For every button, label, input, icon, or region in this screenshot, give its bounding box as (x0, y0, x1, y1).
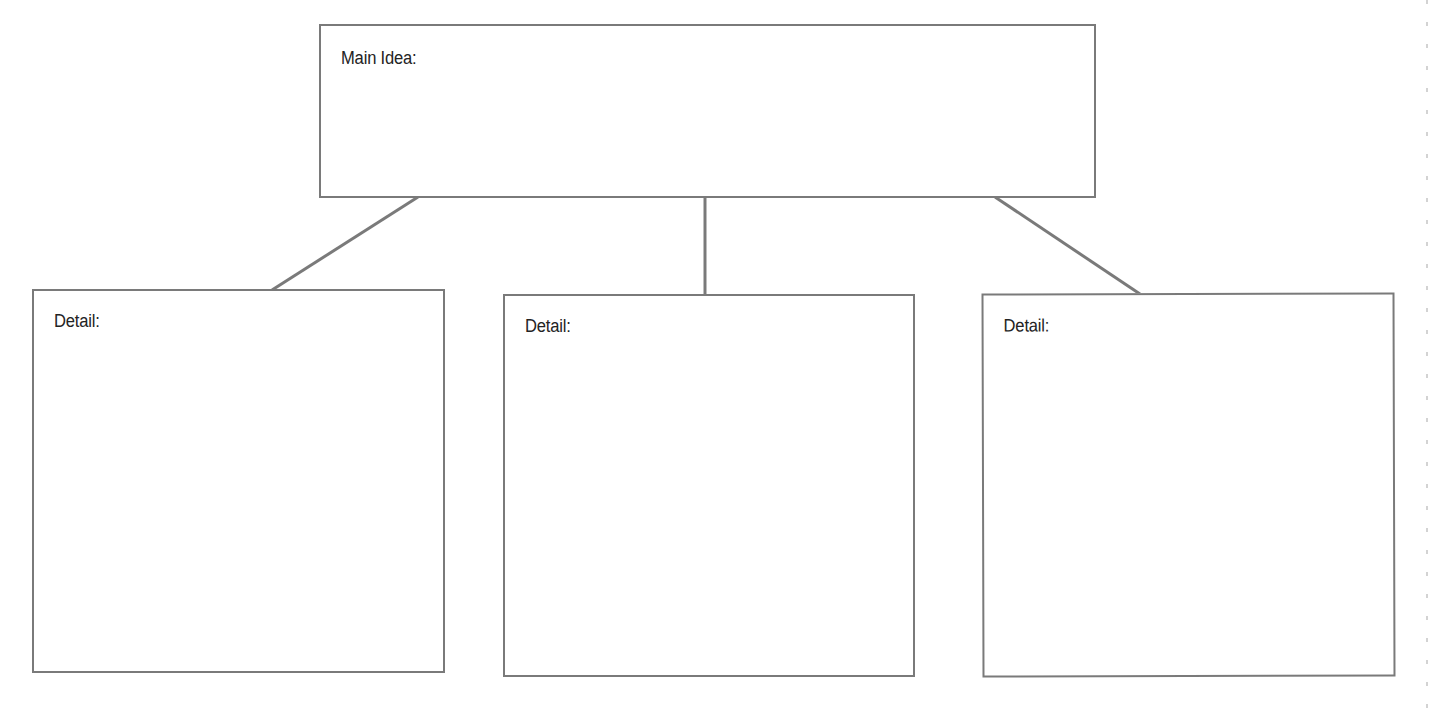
detail-label: Detail: (525, 316, 571, 337)
graphic-organizer-canvas: Main Idea: Detail: Detail: Detail: (0, 0, 1430, 718)
page-edge-dashed-line (1426, 0, 1428, 718)
detail-box-middle[interactable]: Detail: (503, 294, 915, 677)
detail-label: Detail: (54, 311, 100, 332)
main-idea-label: Main Idea: (341, 48, 416, 69)
connector-left (272, 197, 418, 290)
detail-box-right[interactable]: Detail: (981, 292, 1395, 677)
detail-box-left[interactable]: Detail: (32, 289, 445, 673)
connector-right (995, 197, 1140, 294)
detail-label: Detail: (1004, 315, 1050, 336)
main-idea-box[interactable]: Main Idea: (319, 24, 1096, 198)
